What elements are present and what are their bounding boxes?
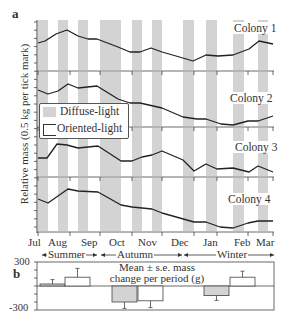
legend: Diffuse-light Oriented-light [39,103,129,139]
month-label: Oct [109,236,125,248]
diffuse-period-bar [152,178,162,231]
panel-b-ytick-top: 300 [14,256,30,267]
month-label: Feb [234,236,251,248]
winter-arrow-head-left [184,253,188,257]
legend-swatch-diffuse [43,107,56,117]
winter-arrow-head-right [270,253,274,257]
colony-3-label: Colony 3 [233,141,280,153]
diffuse-period-bar [58,20,68,70]
diffuse-period-bar [58,178,68,231]
oriented-bar [230,277,255,286]
diffuse-period-bar [132,128,142,176]
oriented-bar [138,286,163,301]
legend-swatch-oriented [43,124,56,136]
oriented-bar [65,277,90,286]
summer-arrow-head-right [93,253,97,257]
legend-label-diffuse: Diffuse-light [60,105,119,117]
diffuse-period-bar [206,72,217,126]
diffuse-period-bar [78,20,88,70]
summer-arrow-head-left [42,253,46,257]
month-label: Dec [171,236,189,248]
diffuse-bar [204,286,229,296]
panel-b-ytick-bottom: -300 [9,302,28,313]
colony-1-label: Colony 1 [232,22,279,34]
month-label: Aug [48,236,67,248]
diffuse-period-bar [132,178,142,231]
autumn-arrow-head-left [101,253,105,257]
panel-b-letter: b [13,266,20,282]
diffuse-period-bar [206,20,217,70]
y-axis-label: Relative mass (0.5 kg per tick mark) [18,29,30,219]
diffuse-period-bar [183,20,194,70]
diffuse-period-bar [132,20,142,70]
legend-label-oriented: Oriented-light [57,122,122,134]
season-label-winter: Winter [216,248,248,260]
diffuse-period-bar [152,72,162,126]
month-label: Sep [81,236,98,248]
month-label: Jan [203,236,218,248]
diffuse-period-bar [152,20,162,70]
diffuse-period-bar [78,178,88,231]
panel-b-title-line2: change per period (g) [100,272,214,284]
month-label: Nov [138,236,157,248]
diffuse-period-bar [132,72,142,126]
season-label-autumn: Autumn [116,248,154,260]
colony-2-label: Colony 2 [228,92,275,104]
diffuse-bar [40,284,65,286]
diffuse-bar [112,286,137,302]
diffuse-period-bar [38,20,48,70]
autumn-arrow-head-right [178,253,182,257]
month-label: Mar [256,236,274,248]
season-label-summer: Summer [47,248,86,260]
panel-a-letter: a [12,6,19,22]
diffuse-period-bar [100,178,121,231]
colony-4-label: Colony 4 [226,193,273,205]
diffuse-period-bar [38,178,48,231]
month-label: Jul [28,236,41,248]
diffuse-period-bar [100,20,121,70]
diffuse-period-bar [183,178,194,231]
